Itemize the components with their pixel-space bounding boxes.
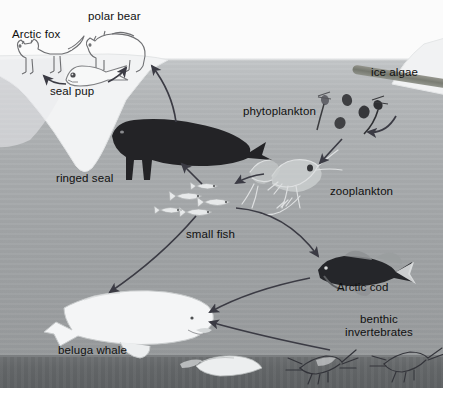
arrow-icealgae-to-phytoplankton xyxy=(368,116,396,132)
arrow-smallfish-to-ringedseal xyxy=(182,164,202,184)
food-web-diagram: Arctic fox polar bear seal pup ringed se… xyxy=(0,0,452,401)
arrow-ringedseal-to-polarbear xyxy=(152,66,176,122)
label-arctic-cod: Arctic cod xyxy=(337,281,389,294)
arrow-smallfish-to-beluga xyxy=(110,216,196,292)
label-zooplankton: zooplankton xyxy=(330,185,393,198)
label-polar-bear: polar bear xyxy=(88,10,141,23)
label-phytoplankton: phytoplankton xyxy=(243,105,316,118)
label-beluga-whale: beluga whale xyxy=(58,344,127,357)
label-benthic-invertebrates: benthic invertebrates xyxy=(345,313,413,339)
label-ice-algae: ice algae xyxy=(371,66,418,79)
arrow-sealpup-to-arcticfox xyxy=(44,76,66,84)
arrow-sealpup-to-polarbear xyxy=(108,68,126,82)
arrow-smallfish-to-arcticcod xyxy=(236,208,318,256)
label-small-fish: small fish xyxy=(186,228,235,241)
label-seal-pup: seal pup xyxy=(50,85,94,98)
label-arctic-fox: Arctic fox xyxy=(12,28,60,41)
arrow-benthic-to-beluga xyxy=(210,322,330,350)
arrow-zooplankton-to-smallfish xyxy=(236,174,264,183)
arrow-phytoplankton-to-zooplankton xyxy=(320,139,342,163)
label-ringed-seal: ringed seal xyxy=(56,172,113,185)
scene: Arctic fox polar bear seal pup ringed se… xyxy=(0,0,443,388)
arrow-arcticcod-to-beluga xyxy=(210,278,310,312)
